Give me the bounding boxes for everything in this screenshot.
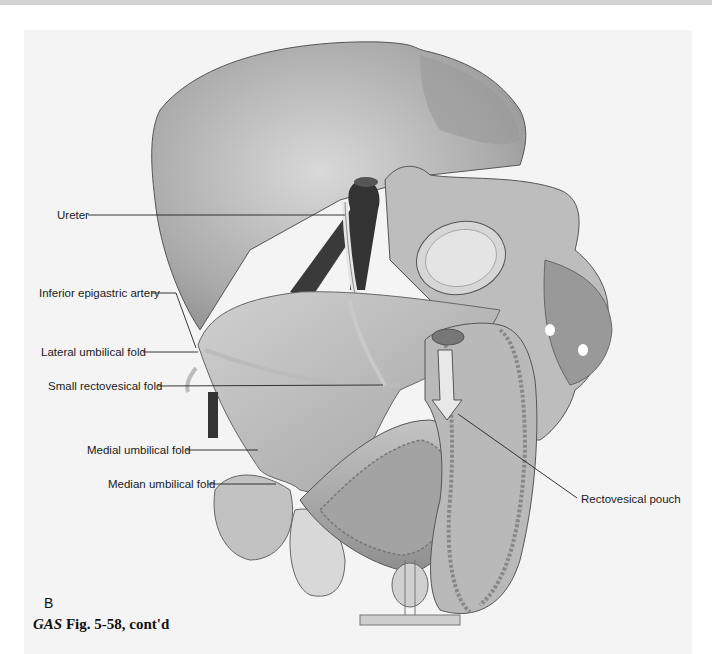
- caption-text: Fig. 5-58, cont'd: [62, 616, 169, 632]
- label-inferior-epigastric-artery: Inferior epigastric artery: [39, 286, 160, 300]
- figure-caption: GAS Fig. 5-58, cont'd: [33, 616, 169, 633]
- label-lateral-umbilical-fold: Lateral umbilical fold: [41, 345, 146, 359]
- pelvis-illustration: [0, 0, 712, 654]
- panel-letter: B: [44, 595, 53, 611]
- label-small-rectovesical-fold: Small rectovesical fold: [48, 379, 162, 393]
- label-ureter: Ureter: [57, 208, 89, 222]
- label-median-umbilical-fold: Median umbilical fold: [108, 477, 215, 491]
- rectum: [425, 323, 537, 613]
- caption-prefix: GAS: [33, 616, 62, 632]
- label-rectovesical-pouch: Rectovesical pouch: [581, 492, 681, 506]
- label-medial-umbilical-fold: Medial umbilical fold: [87, 443, 191, 457]
